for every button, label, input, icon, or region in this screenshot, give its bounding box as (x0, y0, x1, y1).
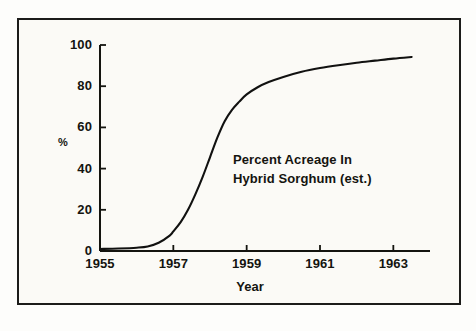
x-axis-title: Year (205, 279, 295, 294)
y-tick-label: 20 (38, 202, 92, 217)
y-tick-label: 60 (38, 119, 92, 134)
y-axis-title: % (58, 136, 68, 148)
chart-annotation-line-1: Percent Acreage In (233, 152, 352, 167)
x-tick-label: 1961 (295, 256, 345, 271)
chart-annotation-line-2: Hybrid Sorghum (est.) (233, 171, 372, 186)
x-tick-label: 1957 (148, 256, 198, 271)
chart-figure: 020406080100 19551957195919611963 % Year… (0, 0, 476, 331)
x-tick-label: 1959 (222, 256, 272, 271)
y-tick-label: 40 (38, 161, 92, 176)
x-tick-label: 1955 (75, 256, 125, 271)
x-tick-label: 1963 (368, 256, 418, 271)
y-tick-label: 80 (38, 78, 92, 93)
y-tick-label: 100 (38, 37, 92, 52)
